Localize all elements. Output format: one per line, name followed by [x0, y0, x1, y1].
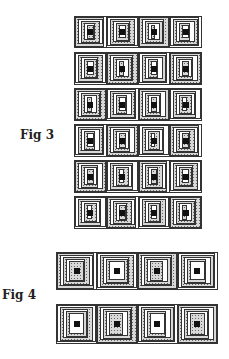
- quilt-block: [107, 161, 139, 192]
- quilt-block: [138, 305, 178, 343]
- center-square: [119, 29, 125, 35]
- quilt-block: [139, 125, 171, 156]
- center-square: [183, 102, 189, 108]
- quilt-strip: [74, 52, 202, 85]
- quilt-block: [107, 197, 139, 228]
- center-square: [194, 268, 200, 274]
- quilt-strip: [74, 88, 202, 121]
- center-square: [119, 174, 125, 180]
- center-square: [194, 321, 200, 327]
- center-square: [87, 174, 93, 180]
- center-square: [114, 321, 120, 327]
- center-square: [151, 210, 157, 216]
- center-square: [154, 321, 160, 327]
- quilt-block: [75, 17, 107, 47]
- center-square: [183, 29, 189, 35]
- quilt-block: [139, 197, 171, 228]
- center-square: [87, 66, 93, 72]
- quilt-block: [139, 89, 171, 120]
- quilt-block: [57, 253, 97, 289]
- quilt-block: [75, 89, 107, 120]
- center-square: [183, 138, 189, 144]
- quilt-strip: [74, 196, 202, 229]
- quilt-block: [139, 17, 171, 47]
- quilt-block: [170, 89, 201, 120]
- center-square: [119, 102, 125, 108]
- center-square: [87, 138, 93, 144]
- center-square: [154, 268, 160, 274]
- center-square: [119, 210, 125, 216]
- center-square: [151, 174, 157, 180]
- center-square: [183, 66, 189, 72]
- center-square: [74, 268, 80, 274]
- center-square: [119, 138, 125, 144]
- quilt-block: [138, 253, 178, 289]
- center-square: [87, 210, 93, 216]
- quilt-block: [97, 305, 137, 343]
- center-square: [87, 102, 93, 108]
- fig4-label: Fig 4: [2, 288, 36, 302]
- quilt-block: [107, 17, 139, 47]
- quilt-block: [178, 253, 217, 289]
- center-square: [183, 174, 189, 180]
- quilt-block: [57, 305, 97, 343]
- quilt-block: [178, 305, 217, 343]
- quilt-block: [139, 53, 171, 84]
- quilt-block: [170, 197, 201, 228]
- quilt-block: [107, 125, 139, 156]
- center-square: [87, 29, 93, 35]
- quilt-strip: [56, 252, 218, 290]
- quilt-strip: [56, 304, 218, 344]
- fig3-label: Fig 3: [20, 128, 54, 142]
- quilt-block: [75, 197, 107, 228]
- center-square: [114, 268, 120, 274]
- quilt-strip: [74, 16, 202, 48]
- center-square: [151, 66, 157, 72]
- quilt-block: [75, 161, 107, 192]
- quilt-block: [170, 53, 201, 84]
- quilt-block: [170, 161, 201, 192]
- center-square: [151, 29, 157, 35]
- quilt-block: [170, 17, 201, 47]
- quilt-strip: [74, 124, 202, 157]
- quilt-block: [75, 53, 107, 84]
- quilt-block: [97, 253, 137, 289]
- quilt-block: [107, 89, 139, 120]
- center-square: [74, 321, 80, 327]
- center-square: [151, 138, 157, 144]
- quilt-block: [170, 125, 201, 156]
- quilt-block: [139, 161, 171, 192]
- quilt-block: [75, 125, 107, 156]
- quilt-strip: [74, 160, 202, 193]
- center-square: [119, 66, 125, 72]
- quilt-block: [107, 53, 139, 84]
- center-square: [183, 210, 189, 216]
- center-square: [151, 102, 157, 108]
